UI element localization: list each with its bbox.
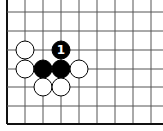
white-stone [70,60,88,78]
black-stone [52,60,70,78]
black-stone: 1 [52,41,70,59]
white-stone [16,41,34,59]
go-board-diagram: 1 [0,0,163,131]
white-stone [52,78,70,96]
white-stone [34,78,52,96]
move-number-label: 1 [57,43,65,57]
black-stone [34,60,52,78]
white-stone [16,60,34,78]
stones-layer: 1 [16,41,88,96]
